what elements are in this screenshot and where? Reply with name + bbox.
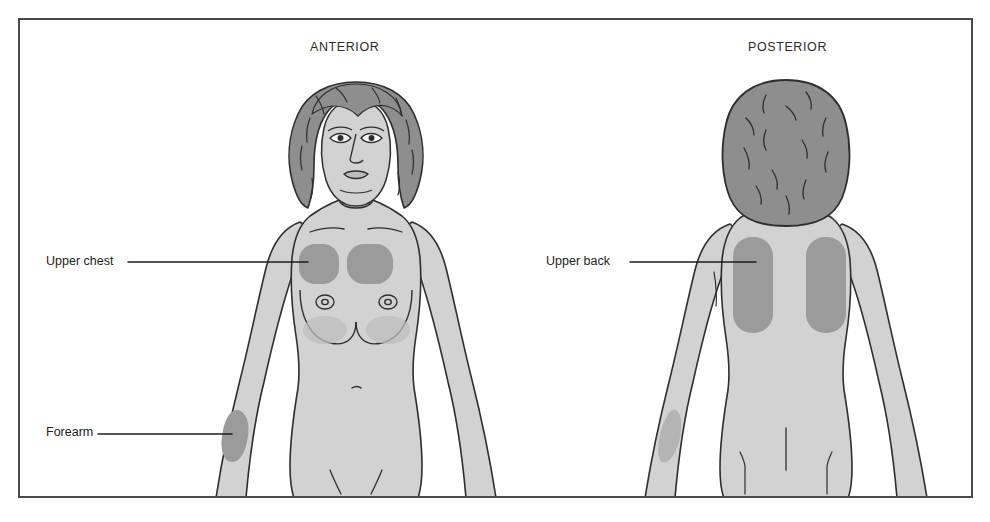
body-map-diagram: ANTERIOR POSTERIOR Upper chest Forearm U… bbox=[0, 0, 990, 522]
callout-label-upper-back: Upper back bbox=[546, 254, 610, 268]
panel-title-anterior: ANTERIOR bbox=[310, 40, 379, 54]
panel-title-posterior: POSTERIOR bbox=[748, 40, 827, 54]
callout-label-forearm: Forearm bbox=[46, 425, 93, 439]
callout-label-upper-chest: Upper chest bbox=[46, 254, 113, 268]
diagram-frame bbox=[18, 18, 973, 498]
